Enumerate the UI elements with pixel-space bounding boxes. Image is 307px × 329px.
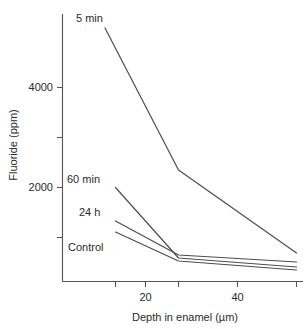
y-tick-label-2000: 2000 (29, 181, 53, 193)
x-tick-label-40: 40 (231, 291, 243, 303)
fluoride-depth-line-chart: 4000 2000 20 40 Fluoride (ppm) Depth in … (0, 0, 307, 329)
y-tick-label-4000: 4000 (29, 81, 53, 93)
x-axis-title: Depth in enamel (µm) (132, 311, 238, 323)
series-label-5-min: 5 min (76, 12, 103, 24)
series-label-60-min: 60 min (67, 173, 100, 185)
series-label-24-h: 24 h (79, 206, 100, 218)
y-axis-title: Fluoride (ppm) (7, 109, 19, 181)
x-tick-label-20: 20 (139, 291, 151, 303)
series-label-control: Control (68, 241, 103, 253)
chart-figure: 4000 2000 20 40 Fluoride (ppm) Depth in … (0, 0, 307, 329)
chart-background (0, 0, 307, 329)
